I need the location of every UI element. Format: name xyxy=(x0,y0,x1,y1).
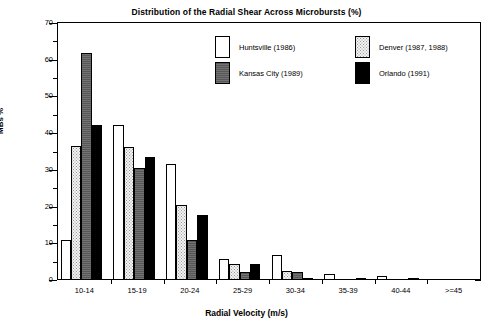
bar xyxy=(324,274,334,280)
legend-item: Denver (1987, 1988) xyxy=(355,36,448,58)
x-tick-label: 10-14 xyxy=(58,286,111,295)
bar-chart: Distribution of the Radial Shear Across … xyxy=(0,0,493,330)
bar xyxy=(303,278,313,280)
bar xyxy=(229,264,239,280)
legend-label: Huntsville (1986) xyxy=(239,43,295,52)
x-tick xyxy=(322,280,323,284)
bar xyxy=(272,255,282,280)
y-tick-label: 20 xyxy=(13,203,53,211)
x-tick-label: >=45 xyxy=(427,286,480,295)
x-tick-label: 20-24 xyxy=(164,286,217,295)
legend-item: Kansas City (1989) xyxy=(215,62,303,84)
x-tick-label: 30-34 xyxy=(269,286,322,295)
bar xyxy=(92,125,102,280)
bar xyxy=(240,272,250,280)
y-tick-label: 60 xyxy=(13,56,53,64)
y-tick-label: 70 xyxy=(13,19,53,27)
bar xyxy=(176,205,186,280)
x-axis-title: Radial Velocity (m/s) xyxy=(0,308,493,318)
legend-swatch xyxy=(355,62,370,84)
bar xyxy=(197,215,207,280)
bar xyxy=(71,146,81,280)
bar xyxy=(61,240,71,280)
x-tick xyxy=(427,280,428,284)
legend-swatch xyxy=(215,36,230,58)
bar xyxy=(134,168,144,280)
x-tick xyxy=(111,280,112,284)
legend-label: Orlando (1991) xyxy=(379,69,429,78)
bar xyxy=(113,125,123,280)
x-tick xyxy=(269,280,270,284)
bar xyxy=(81,53,91,280)
x-tick-label: 15-19 xyxy=(111,286,164,295)
legend-item: Huntsville (1986) xyxy=(215,36,295,58)
x-tick-label: 25-29 xyxy=(216,286,269,295)
bar xyxy=(408,278,418,280)
y-tick-label: 40 xyxy=(13,129,53,137)
y-axis-title: MBs % xyxy=(0,108,5,134)
bar xyxy=(124,147,134,280)
chart-title: Distribution of the Radial Shear Across … xyxy=(0,7,493,17)
y-tick-right xyxy=(475,280,481,281)
bar xyxy=(282,271,292,280)
x-tick xyxy=(375,280,376,284)
bar xyxy=(377,276,387,280)
legend-label: Denver (1987, 1988) xyxy=(379,43,448,52)
bar xyxy=(219,259,229,280)
bar xyxy=(166,164,176,280)
y-tick-label: 50 xyxy=(13,92,53,100)
bar xyxy=(145,157,155,280)
chart-legend: Huntsville (1986)Denver (1987, 1988)Kans… xyxy=(215,36,470,84)
legend-label: Kansas City (1989) xyxy=(239,69,303,78)
y-tick-label: 30 xyxy=(13,166,53,174)
y-tick-label: 10 xyxy=(13,239,53,247)
x-tick xyxy=(164,280,165,284)
legend-swatch xyxy=(355,36,370,58)
x-tick-label: 35-39 xyxy=(322,286,375,295)
bar xyxy=(356,278,366,280)
bar xyxy=(292,272,302,280)
y-tick-label: 0 xyxy=(13,276,53,284)
x-tick-label: 40-44 xyxy=(375,286,428,295)
x-tick xyxy=(216,280,217,284)
bar xyxy=(250,264,260,280)
legend-item: Orlando (1991) xyxy=(355,62,429,84)
legend-swatch xyxy=(215,62,230,84)
bar xyxy=(187,240,197,280)
